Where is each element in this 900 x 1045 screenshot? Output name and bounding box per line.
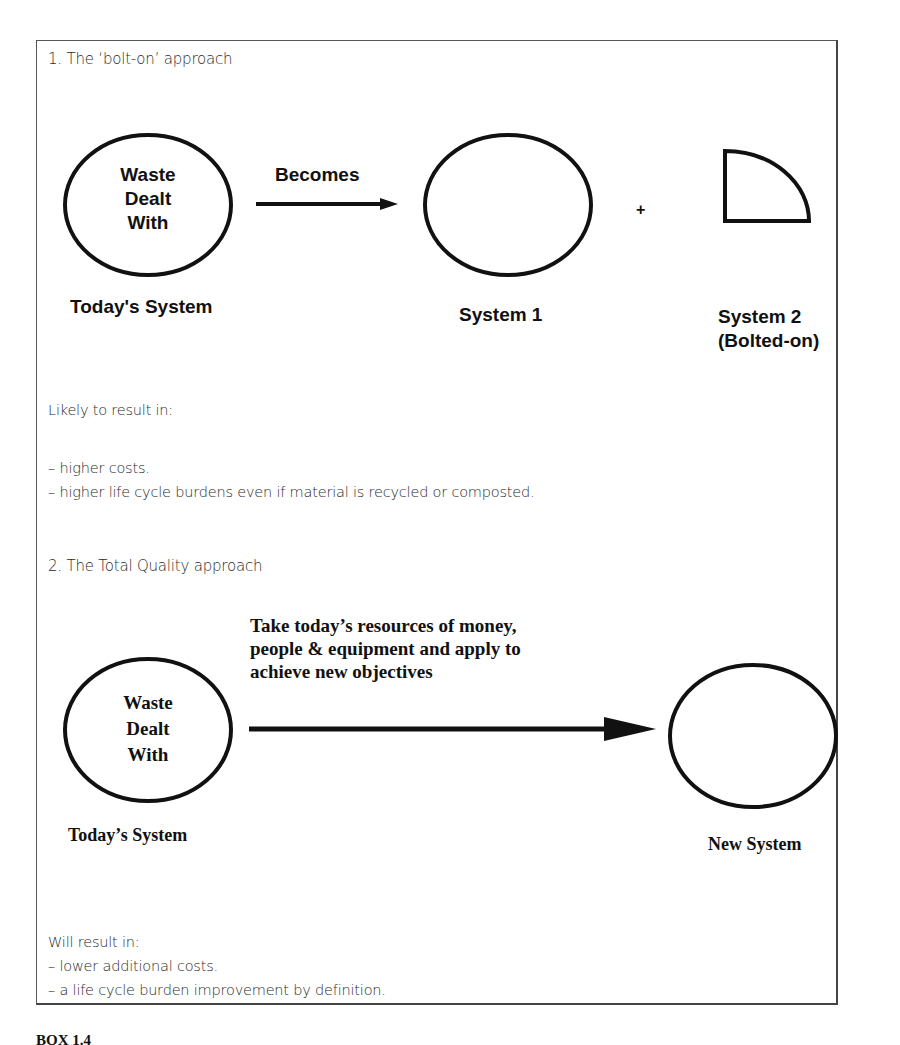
section1-result-2: – higher life cycle burdens even if mate… (48, 482, 534, 503)
total-quality-arrow-text: Take today’s resources of money, people … (250, 614, 521, 683)
circle-line-with: With (62, 211, 234, 235)
figure-caption: BOX 1.4 (36, 1032, 91, 1045)
total-quality-arrow-icon (249, 714, 659, 744)
system2-label: System 2 (Bolted-on) (718, 305, 819, 353)
circle2-line-with: With (62, 742, 234, 768)
todays-circle-text: Waste Dealt With (62, 163, 234, 235)
section1-heading: 1. The ‘bolt-on’ approach (48, 50, 232, 68)
arrow-text-line1: Take today’s resources of money, (250, 614, 521, 637)
todays-circle-text-2: Waste Dealt With (62, 690, 234, 768)
system1-label: System 1 (459, 304, 542, 326)
circle-line-waste: Waste (62, 163, 234, 187)
system2-label-line2: (Bolted-on) (718, 329, 819, 353)
todays-system-label: Today's System (70, 296, 213, 318)
system1-circle (422, 132, 594, 278)
section1-result-intro: Likely to result in: (48, 400, 173, 421)
circle-line-dealt: Dealt (62, 187, 234, 211)
section1-result-1: – higher costs. (48, 458, 150, 479)
system2-label-line1: System 2 (718, 305, 819, 329)
system2-quarter-circle-icon (722, 148, 814, 226)
new-system-circle (667, 662, 839, 810)
new-system-label: New System (708, 834, 801, 855)
becomes-arrow-icon (256, 196, 402, 212)
circle2-line-waste: Waste (62, 690, 234, 716)
becomes-label: Becomes (275, 164, 360, 186)
arrow-text-line2: people & equipment and apply to (250, 637, 521, 660)
section2-heading: 2. The Total Quality approach (48, 557, 262, 575)
section2-result-2: – a life cycle burden improvement by def… (48, 980, 386, 1001)
todays-system-label-2: Today’s System (68, 825, 187, 846)
section2-result-intro: Will result in: (48, 932, 139, 953)
plus-sign: + (636, 201, 645, 219)
arrow-text-line3: achieve new objectives (250, 660, 521, 683)
section2-result-1: – lower additional costs. (48, 956, 218, 977)
circle2-line-dealt: Dealt (62, 716, 234, 742)
